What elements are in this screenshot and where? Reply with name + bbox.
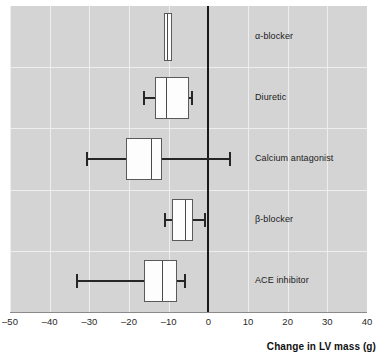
x-tick-label: –50 <box>2 316 18 327</box>
plot-area: α-blockerDiureticCalcium antagonistβ-blo… <box>10 6 367 312</box>
x-tick-label: 0 <box>206 316 211 327</box>
whisker-cap-high <box>184 274 186 288</box>
x-tick-label: 10 <box>243 316 254 327</box>
series-label: ACE inhibitor <box>255 275 309 285</box>
x-tick-label: 20 <box>282 316 293 327</box>
x-tick-label: –10 <box>161 316 177 327</box>
median-line <box>162 261 163 301</box>
whisker-cap-low <box>76 274 78 288</box>
x-tick-label: –20 <box>121 316 137 327</box>
box <box>144 260 177 302</box>
x-tick-label: –40 <box>42 316 58 327</box>
boxplot-group <box>10 6 367 312</box>
whisker-low <box>77 280 145 282</box>
boxplot-figure: α-blockerDiureticCalcium antagonistβ-blo… <box>0 0 384 361</box>
x-axis-line <box>10 312 367 313</box>
x-axis-title: Change in LV mass (g) <box>267 341 376 352</box>
x-tick-label: 40 <box>362 316 373 327</box>
x-tick-label: –30 <box>81 316 97 327</box>
x-tick-label: 30 <box>322 316 333 327</box>
